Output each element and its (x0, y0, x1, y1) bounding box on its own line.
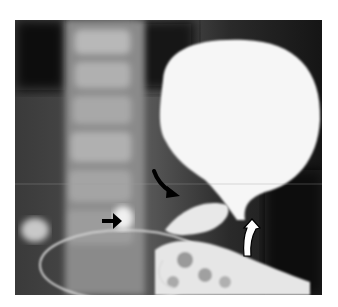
xray-figure (15, 20, 322, 295)
spine (65, 20, 145, 295)
xray-image (15, 20, 322, 295)
